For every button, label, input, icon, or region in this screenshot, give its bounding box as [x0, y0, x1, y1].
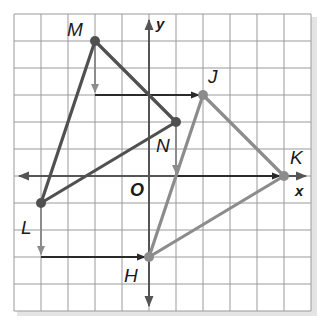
diagram-svg: [0, 0, 326, 323]
grid-background: [14, 14, 311, 311]
label-J: J: [208, 67, 218, 86]
label-N: N: [156, 136, 170, 155]
vertex-J: [198, 90, 208, 100]
vertex-H: [144, 252, 154, 262]
coordinate-plane: M N L J K H O x y: [0, 0, 326, 323]
vertex-M: [90, 36, 100, 46]
label-H: H: [124, 266, 138, 285]
vertex-N: [171, 117, 181, 127]
label-L: L: [21, 218, 32, 237]
y-axis-label: y: [156, 16, 164, 31]
label-K: K: [290, 148, 303, 167]
label-M: M: [67, 20, 83, 39]
vertex-K: [279, 171, 289, 181]
origin-label: O: [130, 181, 144, 199]
x-axis-label: x: [295, 183, 303, 198]
vertex-L: [36, 198, 46, 208]
